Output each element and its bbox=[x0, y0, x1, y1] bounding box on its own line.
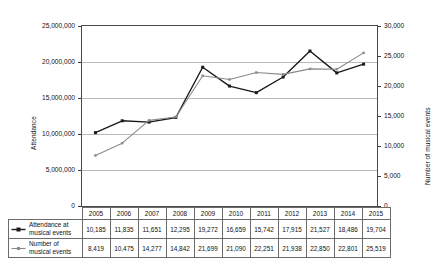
legend-label-line1: Number of bbox=[29, 240, 71, 248]
legend-marker-icon bbox=[11, 225, 26, 234]
table-column-header-2005: 2005 bbox=[82, 208, 110, 220]
legend-marker-icon bbox=[11, 244, 26, 253]
series-marker bbox=[362, 52, 364, 54]
table-cell: 11,835 bbox=[110, 220, 138, 239]
y-axis-right-tick-label: 15,000 bbox=[384, 113, 404, 120]
series-marker bbox=[201, 75, 203, 77]
table-cell: 12,295 bbox=[166, 220, 194, 239]
y-axis-right-tick-label: 25,000 bbox=[384, 53, 404, 60]
table-cell: 19,272 bbox=[194, 220, 222, 239]
table-cell: 22,801 bbox=[334, 239, 362, 258]
table-column-header-2009: 2009 bbox=[194, 208, 222, 220]
table-column-header-2010: 2010 bbox=[222, 208, 250, 220]
table-row: Attendance atmusical events10,18511,8351… bbox=[9, 220, 391, 239]
table-cell: 21,938 bbox=[278, 239, 306, 258]
y-axis-left-tick-label: 5,000,000 bbox=[46, 167, 75, 174]
legend-label-line2: musical events bbox=[29, 229, 71, 237]
legend-item: Attendance atmusical events bbox=[9, 220, 83, 239]
table-column-header-2008: 2008 bbox=[166, 208, 194, 220]
series-marker bbox=[228, 78, 230, 80]
table-header-row: 2005200620072008200920102011201220132014… bbox=[9, 208, 391, 220]
chart-figure: Attendance Number of musical events 05,0… bbox=[0, 0, 439, 280]
y-axis-right-tick-label: 10,000 bbox=[384, 143, 404, 150]
y-axis-left-tick-label: 25,000,000 bbox=[42, 23, 75, 30]
table-column-header-2012: 2012 bbox=[278, 208, 306, 220]
y-axis-left-tick-label: 10,000,000 bbox=[42, 131, 75, 138]
table-cell: 22,850 bbox=[306, 239, 334, 258]
table-cell: 21,699 bbox=[194, 239, 222, 258]
y-axis-right-tick-label: 20,000 bbox=[384, 83, 404, 90]
y-axis-right-tickmark bbox=[378, 86, 381, 87]
legend-item: Number ofmusical events bbox=[9, 239, 83, 258]
y-axis-right-tickmark bbox=[378, 56, 381, 57]
table-cell: 21,527 bbox=[306, 220, 334, 239]
legend-label: Attendance atmusical events bbox=[29, 221, 71, 236]
table-cell: 11,651 bbox=[138, 220, 166, 239]
data-table: 2005200620072008200920102011201220132014… bbox=[8, 207, 378, 258]
table-column-header-2014: 2014 bbox=[334, 208, 362, 220]
series-lines bbox=[82, 26, 377, 206]
table-column-header-2013: 2013 bbox=[306, 208, 334, 220]
table-cell: 8,419 bbox=[82, 239, 110, 258]
y-axis-right-tick-label: 30,000 bbox=[384, 23, 404, 30]
table-column-header-2011: 2011 bbox=[250, 208, 278, 220]
table-cell: 17,915 bbox=[278, 220, 306, 239]
table-cell: 25,519 bbox=[362, 239, 390, 258]
table-column-header-2006: 2006 bbox=[110, 208, 138, 220]
table-cell: 21,090 bbox=[222, 239, 250, 258]
series-marker bbox=[121, 142, 123, 144]
series-marker bbox=[255, 91, 258, 94]
series-marker bbox=[228, 85, 231, 88]
table-cell: 19,704 bbox=[362, 220, 390, 239]
table-row: Number ofmusical events8,41910,47514,277… bbox=[9, 239, 391, 258]
plot-area bbox=[81, 25, 378, 207]
table-column-header-2015: 2015 bbox=[362, 208, 390, 220]
y-axis-left-tick-label: 15,000,000 bbox=[42, 95, 75, 102]
y-axis-right-title: Number of musical events bbox=[424, 107, 431, 185]
y-axis-right-tickmark bbox=[378, 176, 381, 177]
series-marker bbox=[94, 154, 96, 156]
y-axis-left-tick-label: 20,000,000 bbox=[42, 59, 75, 66]
legend-label: Number ofmusical events bbox=[29, 240, 71, 255]
series-line bbox=[95, 53, 363, 156]
table-cell: 10,185 bbox=[82, 220, 110, 239]
y-axis-right-tick-label: 5,000 bbox=[384, 173, 401, 180]
table-corner-cell bbox=[9, 208, 83, 220]
series-marker bbox=[282, 76, 285, 79]
series-marker bbox=[121, 119, 124, 122]
series-line bbox=[95, 51, 363, 133]
series-marker bbox=[335, 71, 338, 74]
series-marker bbox=[175, 116, 177, 118]
table-cell: 18,486 bbox=[334, 220, 362, 239]
series-marker bbox=[309, 68, 311, 70]
table-cell: 14,842 bbox=[166, 239, 194, 258]
table-column-header-2007: 2007 bbox=[138, 208, 166, 220]
series-marker bbox=[201, 66, 204, 69]
table-cell: 22,251 bbox=[250, 239, 278, 258]
series-marker bbox=[94, 131, 97, 134]
series-marker bbox=[282, 73, 284, 75]
y-axis-right-tickmark bbox=[378, 26, 381, 27]
series-marker bbox=[308, 50, 311, 53]
table-cell: 10,475 bbox=[110, 239, 138, 258]
series-marker bbox=[255, 71, 257, 73]
table-cell: 15,742 bbox=[250, 220, 278, 239]
y-axis-right-tickmark bbox=[378, 116, 381, 117]
y-axis-right-tickmark bbox=[378, 146, 381, 147]
legend-label-line1: Attendance at bbox=[29, 221, 71, 229]
y-axis-left-title: Attendance bbox=[30, 116, 37, 150]
series-marker bbox=[336, 68, 338, 70]
table-cell: 16,659 bbox=[222, 220, 250, 239]
legend-label-line2: musical events bbox=[29, 248, 71, 256]
series-marker bbox=[148, 119, 150, 121]
table-cell: 14,277 bbox=[138, 239, 166, 258]
series-marker bbox=[362, 63, 365, 66]
